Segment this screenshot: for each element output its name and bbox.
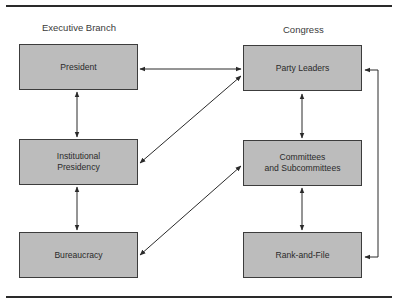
node-party-leaders-label: Party Leaders <box>276 63 330 74</box>
node-party-leaders: Party Leaders <box>243 45 362 91</box>
node-committees-label: Committees and Subcommittees <box>265 152 341 174</box>
node-rank-and-file-label: Rank-and-File <box>276 250 330 261</box>
arrow-bureaucracy-committees <box>140 166 241 255</box>
node-president: President <box>19 44 138 90</box>
node-rank-and-file: Rank-and-File <box>243 232 362 278</box>
arrow-party-leaders-rank-and-file <box>365 70 378 257</box>
node-institutional-presidency-label: Institutional Presidency <box>57 151 100 173</box>
node-bureaucracy: Bureaucracy <box>19 232 138 278</box>
node-bureaucracy-label: Bureaucracy <box>54 250 102 261</box>
node-committees: Committees and Subcommittees <box>243 140 362 186</box>
node-president-label: President <box>60 62 96 73</box>
arrow-institutional-party-leaders <box>140 76 241 163</box>
node-institutional-presidency: Institutional Presidency <box>19 139 138 185</box>
